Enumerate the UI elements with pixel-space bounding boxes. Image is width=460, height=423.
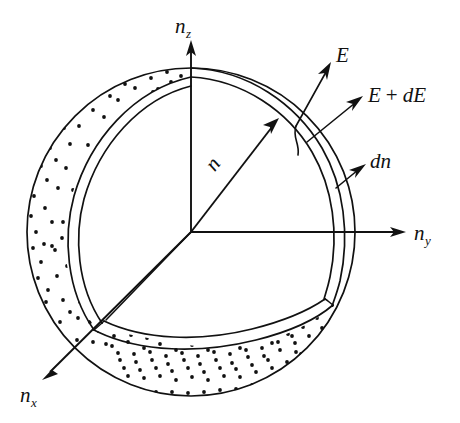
cut-face-xy-arc-inner: [104, 299, 325, 337]
shell-band-cap-bottom: [325, 299, 333, 305]
label-E-plus-dE-operator: +: [386, 83, 398, 107]
figure-root: nz ny nx n E E+dE dn: [0, 0, 460, 423]
cut-face-corner: [94, 330, 98, 332]
sphere-octant-diagram: nz ny nx n E E+dE dn: [0, 0, 460, 423]
radius-vector-label: n: [200, 152, 225, 175]
leader-line-E-shaft: [296, 72, 326, 126]
label-E: E: [335, 43, 349, 67]
axis-label-ny-base: n: [414, 221, 425, 245]
stipple-dots-lower: [104, 298, 334, 405]
cut-face-xy-arc-outer: [98, 305, 333, 349]
axis-label-nx-subscript: x: [30, 395, 37, 410]
stipple-dots-upper: [29, 68, 183, 354]
stipple-region: [29, 68, 334, 405]
leader-arrowhead-E: [318, 62, 331, 80]
label-E-plus-dE-second: dE: [403, 83, 427, 107]
axis-label-nz-subscript: z: [185, 26, 191, 41]
axis-label-nx: nx: [20, 383, 37, 410]
axis-label-nz-base: n: [175, 14, 186, 38]
leader-line-dn: [336, 170, 358, 188]
label-E-plus-dE-first: E: [367, 83, 381, 107]
shell-inner-arc: [191, 77, 334, 300]
axis-line-nx: [50, 232, 191, 372]
axis-label-ny: ny: [414, 221, 431, 248]
label-dn: dn: [370, 149, 391, 173]
axis-label-ny-subscript: y: [423, 233, 431, 248]
axis-label-nz: nz: [175, 14, 191, 41]
label-E-plus-dE: E+dE: [367, 83, 426, 107]
axis-label-nx-base: n: [20, 383, 31, 407]
radius-vector-line: [191, 127, 272, 232]
radius-vector-arrowhead: [263, 118, 279, 134]
